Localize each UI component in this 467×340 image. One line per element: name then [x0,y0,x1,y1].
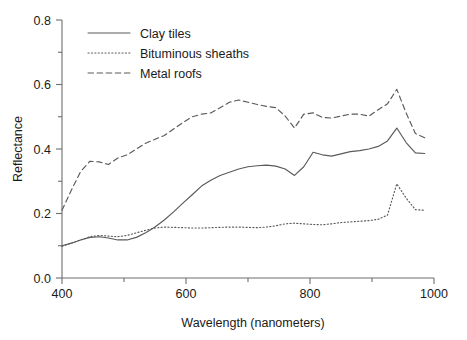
x-tick-labels: 4006008001000 [52,287,448,301]
y-axis-title: Reflectance [11,116,25,182]
y-tick-label: 0.8 [34,14,51,28]
legend-label: Bituminous sheaths [140,47,249,61]
legend-label: Clay tiles [140,27,191,41]
y-tick-label: 0.6 [34,78,51,92]
y-tick-labels: 0.00.20.40.60.8 [34,14,51,286]
x-tick-label: 600 [176,287,197,301]
x-axis-title: Wavelength (nanometers) [181,316,324,330]
x-tick-label: 1000 [420,287,448,301]
y-tick-label: 0.2 [34,207,51,221]
y-tick-label: 0.4 [34,143,51,157]
x-tick-label: 400 [52,287,73,301]
legend-label: Metal roofs [140,67,202,81]
chart-canvas: 4006008001000 0.00.20.40.60.8 Clay tiles… [0,0,467,340]
x-tick-label: 800 [300,287,321,301]
reflectance-chart: 4006008001000 0.00.20.40.60.8 Clay tiles… [0,0,467,340]
data-series [62,89,425,246]
series-line-metal-roofs [62,89,425,210]
y-tick-label: 0.0 [34,272,51,286]
chart-legend: Clay tilesBituminous sheathsMetal roofs [88,27,249,81]
series-line-clay-tiles [62,128,425,246]
series-line-bituminous-sheaths [62,184,425,247]
